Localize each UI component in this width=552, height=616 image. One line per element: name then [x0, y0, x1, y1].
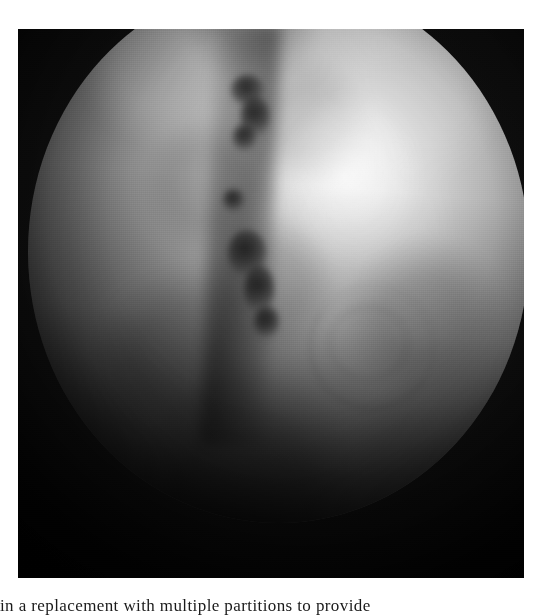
figure-panel — [18, 29, 524, 578]
body-text-line: in a replacement with multiple partition… — [0, 596, 552, 616]
body-text: in a replacement with multiple partition… — [0, 596, 552, 616]
document-page: in a replacement with multiple partition… — [0, 0, 552, 616]
lens-vignette — [18, 29, 524, 578]
